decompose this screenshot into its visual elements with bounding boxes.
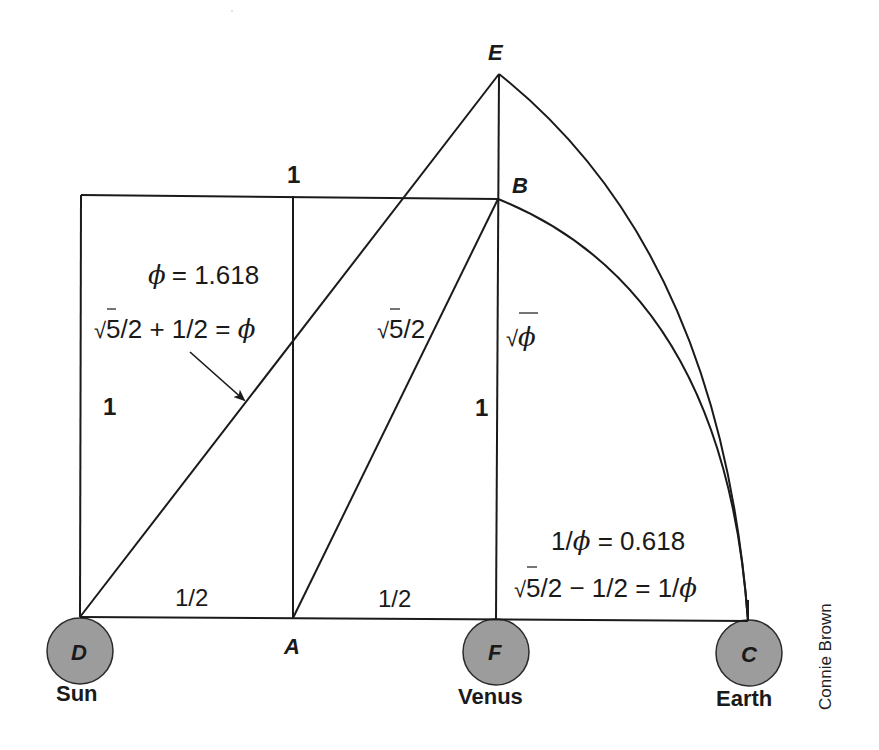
inv-phi-value-label: 1/ϕ = 0.618 xyxy=(551,526,685,556)
point-c-label: C xyxy=(741,642,758,667)
point-f-label: F xyxy=(488,640,502,665)
phi-value-label: ϕ= 1.618 xyxy=(148,260,259,290)
inv-phi-formula-label: √5/2 − 1/2 = 1/ϕ xyxy=(514,573,697,603)
diagonal-ab xyxy=(293,199,498,618)
diagonal-de xyxy=(80,74,499,617)
arc-bc xyxy=(498,199,748,621)
phi-formula-label: √5/2 + 1/2 = ϕ xyxy=(94,314,256,344)
left-edge-line xyxy=(80,195,81,617)
credit-label: Connie Brown xyxy=(816,603,835,710)
da-half-label: 1/2 xyxy=(175,584,208,611)
fb-side-label: 1 xyxy=(475,394,488,421)
point-a-label: A xyxy=(283,634,300,659)
speck xyxy=(231,10,233,12)
fb-length-label: √ϕ xyxy=(506,322,536,352)
baseline-dc xyxy=(80,617,748,621)
golden-ratio-diagram: E B D A F C Sun Venus Earth 1 1 1 1/2 1/… xyxy=(0,0,879,750)
sun-label: Sun xyxy=(56,681,98,706)
ab-length-label: √5/2 xyxy=(377,314,425,344)
top-edge-line xyxy=(81,195,498,199)
point-e-label: E xyxy=(488,40,504,65)
left-side-label: 1 xyxy=(103,393,116,420)
point-b-label: B xyxy=(512,173,528,198)
earth-label: Earth xyxy=(716,686,772,711)
top-side-label: 1 xyxy=(287,161,300,188)
arrow-pointer xyxy=(190,352,244,400)
af-half-label: 1/2 xyxy=(378,585,411,612)
venus-label: Venus xyxy=(458,684,523,709)
point-d-label: D xyxy=(71,640,87,665)
vertical-ef xyxy=(496,74,499,620)
